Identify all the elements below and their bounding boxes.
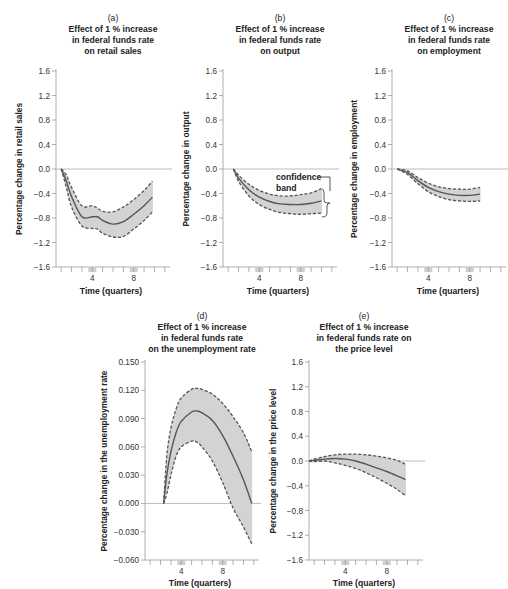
- y-tick-label: 0.4: [206, 141, 218, 150]
- panel-title-line: in federal funds rate: [72, 35, 154, 45]
- y-tick-label: −1.2: [370, 239, 387, 248]
- panel-e: (e) Effect of 1 % increase in federal fu…: [268, 311, 425, 588]
- x-axis-label: Time (quarters): [417, 286, 480, 296]
- x-tick-label: 8: [220, 567, 225, 576]
- panel-letter: (b): [275, 13, 286, 23]
- y-tick-label: −0.4: [370, 190, 387, 199]
- y-axis-label: Percentage change in retail sales: [14, 103, 24, 236]
- annotation-line: confidence: [276, 172, 322, 182]
- panel-title-line: in federal funds rate on: [316, 333, 411, 343]
- y-tick-label: 0.060: [119, 443, 140, 452]
- x-tick-label: 4: [343, 567, 348, 576]
- y-axis-label: Percentage change in employment: [349, 100, 359, 238]
- annotation-line: band: [276, 183, 297, 193]
- y-tick-label: −0.8: [370, 214, 387, 223]
- y-tick-label: −1.2: [34, 239, 51, 248]
- y-tick-label: 0.120: [119, 386, 140, 395]
- x-tick-label: 4: [179, 567, 184, 576]
- y-tick-label: −0.8: [287, 507, 304, 516]
- panel-letter: (a): [108, 13, 119, 23]
- panel-b: (b) Effect of 1 % increase in federal fu…: [181, 13, 339, 296]
- y-tick-label: −0.4: [34, 190, 51, 199]
- y-tick-label: 0.0: [375, 165, 387, 174]
- x-tick-label: 8: [467, 274, 472, 283]
- y-tick-label: −1.2: [287, 531, 304, 540]
- y-tick-label: 0.4: [375, 141, 387, 150]
- y-axis-label: Percentage change in the unemployment ra…: [99, 370, 109, 551]
- y-tick-label: −1.6: [201, 263, 218, 272]
- y-tick-label: 0.0: [292, 457, 304, 466]
- panel-title-line: on employment: [417, 46, 481, 56]
- y-tick-label: 1.2: [292, 383, 304, 392]
- panel-d: (d) Effect of 1 % increase in federal fu…: [99, 311, 261, 588]
- panel-title-line: the price level: [335, 344, 392, 354]
- x-tick-label: 8: [384, 567, 389, 576]
- y-tick-label: 0.090: [119, 415, 140, 424]
- y-tick-label: −1.2: [201, 239, 218, 248]
- y-tick-label: 0.000: [119, 499, 140, 508]
- y-tick-label: 1.6: [206, 67, 218, 76]
- plot-area: 0.1500.1200.0900.0600.0300.000−0.030−0.0…: [114, 358, 261, 576]
- y-tick-label: 1.6: [375, 67, 387, 76]
- x-axis-label: Time (quarters): [247, 286, 310, 296]
- y-tick-label: 0.8: [206, 116, 218, 125]
- x-tick-label: 4: [90, 274, 95, 283]
- y-tick-label: 0.8: [292, 408, 304, 417]
- panel-title-line: in federal funds rate: [408, 35, 490, 45]
- y-tick-label: −0.4: [287, 482, 304, 491]
- panel-title-line: on retail sales: [84, 46, 142, 56]
- figure-canvas: (a) Effect of 1 % increase in federal fu…: [0, 0, 508, 589]
- x-tick-label: 8: [131, 274, 136, 283]
- y-tick-label: 1.2: [206, 92, 218, 101]
- panel-title-line: on the unemployment rate: [148, 344, 256, 354]
- y-tick-label: 1.2: [39, 92, 51, 101]
- y-tick-label: −1.6: [34, 263, 51, 272]
- y-tick-label: −0.8: [34, 214, 51, 223]
- y-tick-label: 0.150: [119, 358, 140, 367]
- x-tick-label: 4: [426, 274, 431, 283]
- panel-letter: (c): [444, 13, 454, 23]
- panel-letter: (d): [197, 311, 208, 321]
- confidence-band: [164, 388, 252, 544]
- y-tick-label: 0.8: [375, 116, 387, 125]
- panel-title-line: Effect of 1 % increase: [69, 24, 158, 34]
- y-tick-label: 1.6: [292, 358, 304, 367]
- panel-letter: (e): [359, 311, 370, 321]
- y-tick-label: −0.030: [114, 528, 140, 537]
- panel-title-line: Effect of 1 % increase: [236, 24, 325, 34]
- y-tick-label: 0.030: [119, 471, 140, 480]
- plot-area: 1.61.20.80.40.0−0.4−0.8−1.2−1.648: [287, 358, 425, 576]
- y-tick-label: 0.0: [206, 165, 218, 174]
- y-tick-label: 0.4: [39, 141, 51, 150]
- x-axis-label: Time (quarters): [169, 578, 232, 588]
- y-tick-label: 1.6: [39, 67, 51, 76]
- x-tick-label: 8: [298, 274, 303, 283]
- panel-title-line: Effect of 1 % increase: [320, 322, 409, 332]
- y-tick-label: 0.4: [292, 432, 304, 441]
- panel-title-line: Effect of 1 % increase: [158, 322, 247, 332]
- plot-area: 1.61.20.80.40.0−0.4−0.8−1.2−1.648: [34, 67, 172, 283]
- x-axis-label: Time (quarters): [80, 286, 143, 296]
- upper-bound-line: [397, 169, 480, 189]
- y-tick-label: −0.4: [201, 190, 218, 199]
- plot-area: 1.61.20.80.40.0−0.4−0.8−1.2−1.648: [370, 67, 508, 283]
- y-tick-label: −0.060: [114, 556, 140, 565]
- y-tick-label: 1.2: [375, 92, 387, 101]
- panel-title-line: Effect of 1 % increase: [405, 24, 494, 34]
- panel-title-line: on output: [260, 46, 300, 56]
- panel-c: (c) Effect of 1 % increase in federal fu…: [349, 13, 508, 296]
- confidence-band: [309, 454, 405, 496]
- panel-title-line: in federal funds rate: [239, 35, 321, 45]
- y-tick-label: −1.6: [370, 263, 387, 272]
- panel-title-line: in federal funds rate: [161, 333, 243, 343]
- panel-a: (a) Effect of 1 % increase in federal fu…: [14, 13, 172, 296]
- x-tick-label: 4: [257, 274, 262, 283]
- y-tick-label: 0.8: [39, 116, 51, 125]
- y-axis-label: Percentage change in the price level: [268, 389, 278, 534]
- y-tick-label: −0.8: [201, 214, 218, 223]
- x-axis-label: Time (quarters): [333, 578, 396, 588]
- y-tick-label: 0.0: [39, 165, 51, 174]
- y-tick-label: −1.6: [287, 556, 304, 565]
- y-axis-label: Percentage change in output: [181, 111, 191, 226]
